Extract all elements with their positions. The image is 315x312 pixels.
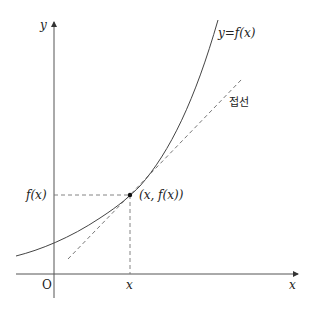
- x-tick-label: x: [126, 279, 133, 291]
- origin-label: O: [42, 279, 52, 291]
- curve-label: y=f(x): [218, 27, 255, 39]
- tangent-label: 접선: [229, 97, 249, 108]
- fx-label: f(x): [26, 189, 47, 201]
- point-label: (x, f(x)): [139, 189, 183, 201]
- tangent-line: [68, 79, 242, 259]
- tangent-point: [128, 193, 132, 197]
- diagram-canvas: [0, 0, 315, 312]
- tangent-diagram: y y=f(x) 접선 f(x) (x, f(x)) O x x: [0, 0, 315, 312]
- x-axis-label: x: [289, 279, 296, 291]
- curve-fx: [16, 20, 218, 256]
- y-axis-label: y: [40, 19, 47, 31]
